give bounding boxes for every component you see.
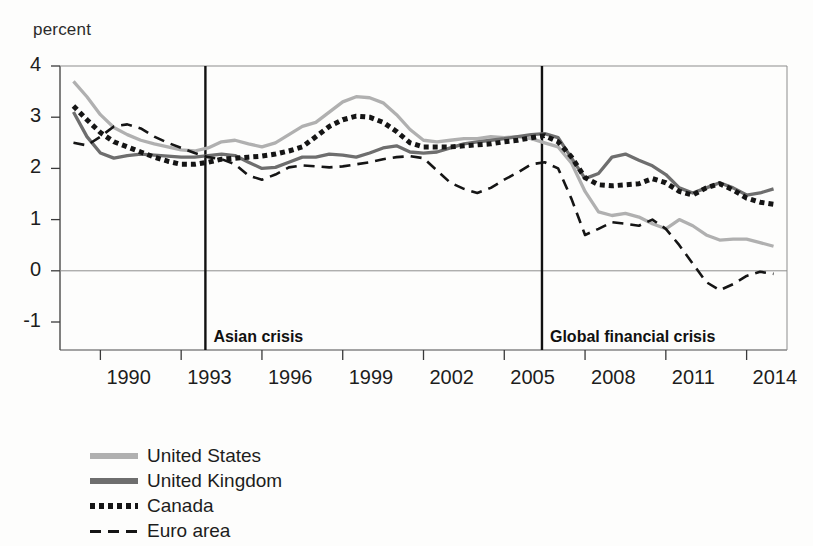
legend-swatch-icon: [90, 475, 138, 487]
y-tick-label: 4: [7, 53, 41, 76]
y-tick-label: -1: [7, 309, 41, 332]
legend-item[interactable]: Canada: [90, 493, 282, 518]
legend-label: United Kingdom: [147, 468, 282, 493]
y-tick-label: 1: [7, 207, 41, 230]
legend-label: United States: [147, 443, 261, 468]
y-tick-label: 0: [7, 258, 41, 281]
crisis-label: Asian crisis: [213, 328, 303, 346]
series-line-united-states: [73, 81, 773, 246]
x-tick-label: 1993: [187, 366, 257, 389]
x-tick-label: 2011: [672, 366, 742, 389]
legend-item[interactable]: United States: [90, 443, 282, 468]
x-tick-label: 2005: [510, 366, 580, 389]
chart-legend: United StatesUnited KingdomCanadaEuro ar…: [90, 443, 282, 543]
legend-item[interactable]: United Kingdom: [90, 468, 282, 493]
series-line-canada: [73, 106, 773, 204]
x-tick-label: 2002: [430, 366, 500, 389]
x-tick-label: 2014: [753, 366, 813, 389]
x-tick-label: 2008: [591, 366, 661, 389]
x-tick-label: 1999: [349, 366, 419, 389]
chart-container: percent 43210-1 199019931996199920022005…: [0, 0, 813, 546]
y-tick-label: 2: [7, 155, 41, 178]
y-tick-label: 3: [7, 104, 41, 127]
legend-label: Euro area: [147, 518, 230, 543]
legend-swatch-icon: [90, 450, 138, 462]
legend-label: Canada: [147, 493, 214, 518]
legend-swatch-icon: [90, 525, 138, 537]
crisis-label: Global financial crisis: [550, 328, 715, 346]
legend-swatch-icon: [90, 500, 138, 512]
x-tick-label: 1996: [268, 366, 338, 389]
x-tick-label: 1990: [106, 366, 176, 389]
legend-item[interactable]: Euro area: [90, 518, 282, 543]
series-line-united-kingdom: [73, 112, 773, 195]
